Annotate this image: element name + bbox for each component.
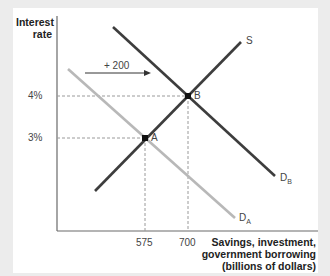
y-axis-title: Interest rate — [16, 16, 52, 40]
y-tick-3pct: 3% — [28, 132, 42, 143]
y-axis-title-line2: rate — [16, 28, 52, 40]
point-a-marker — [142, 135, 148, 141]
point-b-marker — [185, 93, 191, 99]
x-axis-title-line1: Savings, investment, — [202, 236, 316, 248]
x-tick-700: 700 — [179, 237, 196, 248]
demand-b-label: DB — [280, 172, 292, 185]
y-tick-4pct: 4% — [28, 90, 42, 101]
point-b-label: B — [194, 90, 201, 101]
x-axis-title-line3: (billions of dollars) — [202, 260, 316, 272]
supply-label: S — [246, 35, 253, 46]
demand-a-label-sub: A — [246, 218, 251, 225]
chart-svg — [0, 0, 330, 276]
demand-curve-a — [68, 69, 235, 218]
demand-curve-b — [113, 27, 275, 176]
x-axis-title-line2: government borrowing — [202, 248, 316, 260]
demand-a-label: DA — [239, 212, 251, 225]
x-axis-title: Savings, investment, government borrowin… — [202, 236, 316, 272]
arrow-head-icon — [144, 70, 151, 76]
y-axis-title-line1: Interest — [16, 16, 52, 28]
demand-b-label-sub: B — [287, 178, 292, 185]
x-tick-575: 575 — [136, 237, 153, 248]
point-a-label: A — [151, 132, 158, 143]
shift-label: + 200 — [104, 60, 129, 71]
